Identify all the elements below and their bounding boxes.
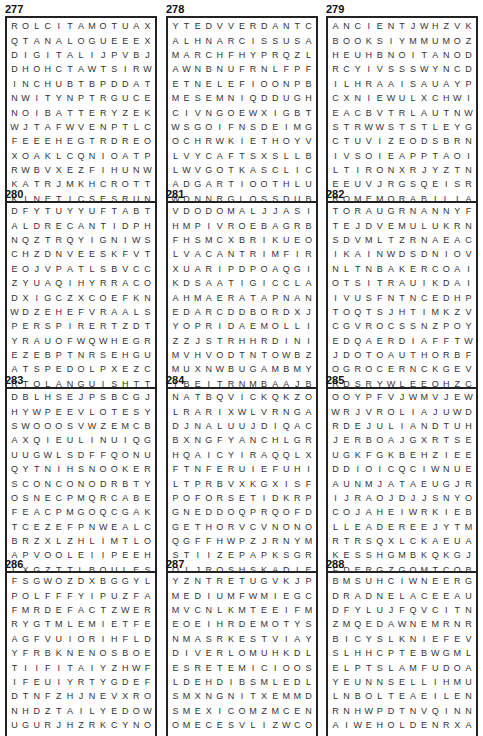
letter-cell: U <box>236 421 247 431</box>
letter-cell: N <box>87 648 98 658</box>
letter-cell: P <box>109 50 120 60</box>
letter-cell: A <box>64 50 75 60</box>
letter-cell: P <box>248 507 259 517</box>
letter-cell: Q <box>352 336 363 346</box>
letter-cell: S <box>142 307 153 317</box>
letter-cell: D <box>181 677 192 687</box>
letter-cell: T <box>203 576 214 586</box>
letter-cell: E <box>385 591 396 601</box>
puzzle-288: 288 BMSUHCIWNEERGDRADNELACEEAUDFYLUJFQVC… <box>326 558 478 736</box>
letter-cell: H <box>170 221 181 231</box>
letter-cell: O <box>374 435 385 445</box>
letter-cell: T <box>236 151 247 161</box>
letter-cell: C <box>341 64 352 74</box>
grid-row: MARCHFHYPRQZL <box>170 48 314 62</box>
letter-cell: Y <box>430 165 441 175</box>
letter-cell: T <box>419 50 430 60</box>
letter-cell: U <box>109 591 120 601</box>
letter-cell: Z <box>53 691 64 701</box>
letter-cell: N <box>225 93 236 103</box>
letter-cell: C <box>53 493 64 503</box>
letter-cell: Y <box>303 634 314 644</box>
letter-cell: L <box>75 435 86 445</box>
letter-cell: D <box>374 522 385 532</box>
letter-cell: C <box>419 293 430 303</box>
letter-cell: K <box>259 392 270 402</box>
grid-row: HEUHBNOITANOD <box>330 48 474 62</box>
letter-cell: I <box>396 421 407 431</box>
letter-cell: T <box>20 36 31 46</box>
letter-cell: L <box>281 151 292 161</box>
letter-cell: U <box>281 93 292 103</box>
letter-cell: E <box>441 576 452 586</box>
letter-cell: C <box>419 364 430 374</box>
letter-cell: N <box>270 522 281 532</box>
letter-cell: E <box>203 79 214 89</box>
letter-cell: Z <box>31 307 42 317</box>
letter-cell: E <box>452 691 463 701</box>
letter-cell: T <box>236 350 247 360</box>
letter-cell: C <box>131 93 142 103</box>
letter-cell: H <box>120 350 131 360</box>
letter-cell: N <box>9 235 20 245</box>
letter-cell: N <box>9 108 20 118</box>
letter-cell: Y <box>142 479 153 489</box>
letter-cell: M <box>303 605 314 615</box>
letter-cell: Y <box>20 464 31 474</box>
letter-cell: W <box>142 165 153 175</box>
letter-cell: E <box>214 464 225 474</box>
letter-cell: I <box>214 321 225 331</box>
letter-cell: Z <box>98 421 109 431</box>
letter-cell: M <box>170 93 181 103</box>
letter-cell: I <box>87 235 98 245</box>
letter-cell: L <box>408 93 419 103</box>
letter-cell: N <box>441 206 452 216</box>
letter-cell: I <box>214 706 225 716</box>
letter-cell: Y <box>396 36 407 46</box>
letter-cell: S <box>408 64 419 74</box>
letter-cell: Z <box>385 136 396 146</box>
letter-cell: C <box>87 605 98 615</box>
letter-cell: O <box>170 720 181 730</box>
letter-cell: I <box>9 677 20 687</box>
grid-row: TORAUGRNANNYF <box>330 204 474 218</box>
puzzle-286: 286 FSGWOZDXBGGYLPOLFFFYIPUZFAFMRDEFACTZ… <box>5 558 157 736</box>
letter-cell: A <box>192 307 203 317</box>
letter-cell: O <box>341 507 352 517</box>
letter-cell: C <box>408 464 419 474</box>
letter-cell: T <box>396 122 407 132</box>
letter-cell: G <box>341 321 352 331</box>
letter-cell: F <box>303 479 314 489</box>
grid-row: SWOOOSVWZEMCB <box>9 419 153 433</box>
letter-cell: D <box>303 507 314 517</box>
letter-cell: L <box>385 421 396 431</box>
letter-cell: R <box>303 249 314 259</box>
letter-cell: N <box>374 249 385 259</box>
letter-cell: P <box>142 151 153 161</box>
letter-cell: K <box>120 464 131 474</box>
letter-cell: K <box>225 136 236 146</box>
letter-cell: H <box>64 720 75 730</box>
letter-cell: W <box>131 663 142 673</box>
letter-cell: E <box>270 122 281 132</box>
letter-cell: S <box>292 479 303 489</box>
letter-cell: S <box>20 576 31 586</box>
letter-cell: Y <box>441 522 452 532</box>
letter-cell: E <box>452 507 463 517</box>
letter-cell: O <box>214 165 225 175</box>
letter-cell: P <box>53 264 64 274</box>
letter-cell: X <box>53 165 64 175</box>
letter-cell: E <box>120 336 131 346</box>
letter-cell: U <box>441 407 452 417</box>
letter-cell: I <box>120 435 131 445</box>
letter-cell: C <box>64 221 75 231</box>
letter-cell: D <box>341 421 352 431</box>
letter-cell: P <box>131 221 142 231</box>
letter-cell: M <box>408 663 419 673</box>
letter-cell: J <box>98 50 109 60</box>
letter-cell: S <box>352 278 363 288</box>
letter-cell: A <box>463 720 474 730</box>
letter-cell: O <box>225 507 236 517</box>
letter-cell: H <box>270 648 281 658</box>
letter-cell: C <box>203 151 214 161</box>
